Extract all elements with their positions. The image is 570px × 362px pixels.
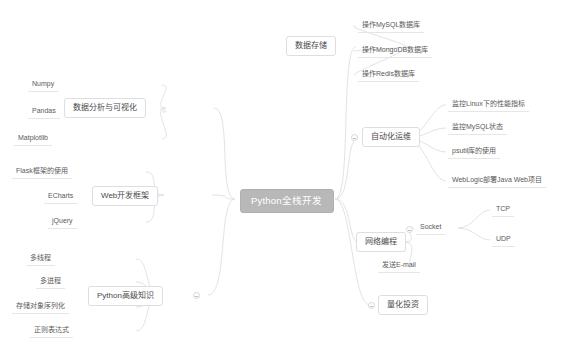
leaf-node-matplotlib[interactable]: Matplotlib bbox=[14, 131, 52, 146]
leaf-node-weblogic[interactable]: WebLogic部署Java Web项目 bbox=[448, 173, 546, 188]
branch-node-web[interactable]: Web开发框架 bbox=[92, 186, 158, 206]
leaf-node-multithread[interactable]: 多线程 bbox=[26, 251, 55, 266]
leaf-node-numpy[interactable]: Numpy bbox=[28, 77, 58, 92]
leaf-node-mysql[interactable]: 操作MySQL数据库 bbox=[358, 18, 424, 33]
leaf-node-mongodb[interactable]: 操作MongoDB数据库 bbox=[358, 43, 432, 58]
leaf-node-tcp[interactable]: TCP bbox=[492, 202, 514, 217]
root-node[interactable]: Python全栈开发 bbox=[240, 189, 334, 213]
leaf-node-redis[interactable]: 操作Redis数据库 bbox=[358, 67, 419, 82]
leaf-node-jquery[interactable]: jQuery bbox=[48, 214, 77, 229]
collapse-toggle-devops-icon[interactable] bbox=[351, 134, 358, 141]
leaf-node-socket[interactable]: Socket bbox=[416, 220, 445, 235]
collapse-toggle-socket-icon[interactable] bbox=[406, 226, 413, 233]
leaf-node-pandas[interactable]: Pandas bbox=[28, 104, 60, 119]
leaf-node-multiprocess[interactable]: 多进程 bbox=[36, 274, 65, 289]
leaf-node-serialization[interactable]: 存储对象序列化 bbox=[12, 299, 69, 314]
leaf-node-flask[interactable]: Flask框架的使用 bbox=[12, 164, 72, 179]
branch-node-data-analysis[interactable]: 数据分析与可视化 bbox=[64, 98, 146, 118]
leaf-node-mysql-status[interactable]: 监控MySQL状态 bbox=[448, 120, 507, 135]
leaf-node-linux-metrics[interactable]: 监控Linux下的性能指标 bbox=[448, 97, 529, 112]
branch-node-devops[interactable]: 自动化运维 bbox=[362, 127, 420, 147]
branch-node-advanced[interactable]: Python高级知识 bbox=[88, 286, 163, 306]
collapse-toggle-advanced-icon[interactable] bbox=[193, 292, 200, 299]
branch-node-network[interactable]: 网络编程 bbox=[356, 232, 406, 252]
branch-node-data-storage[interactable]: 数据存储 bbox=[286, 36, 336, 56]
branch-node-quant[interactable]: 量化投资 bbox=[378, 295, 428, 315]
mindmap-canvas[interactable]: Python全栈开发 数据存储 自动化运维 网络编程 量化投资 操作MySQL数… bbox=[0, 0, 570, 362]
leaf-node-regex[interactable]: 正则表达式 bbox=[30, 323, 73, 338]
leaf-node-echarts[interactable]: ECharts bbox=[44, 189, 77, 204]
leaf-node-email[interactable]: 发送E-mail bbox=[378, 258, 420, 273]
leaf-node-udp[interactable]: UDP bbox=[492, 232, 515, 247]
leaf-node-psutil[interactable]: psutil库的使用 bbox=[448, 144, 500, 159]
collapse-toggle-quant-icon[interactable] bbox=[368, 302, 375, 309]
